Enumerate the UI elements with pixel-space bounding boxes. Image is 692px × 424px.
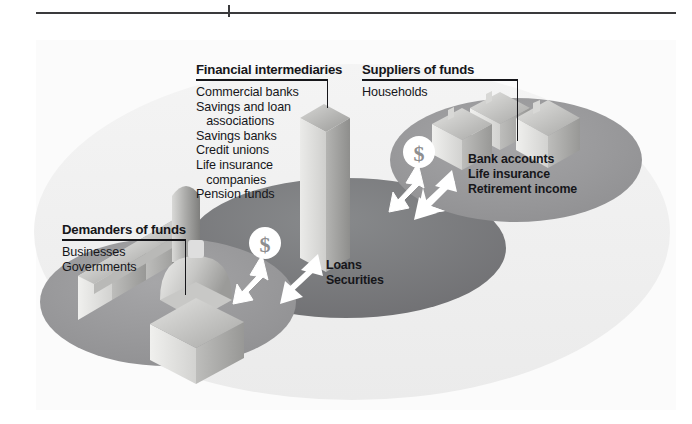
figure-stage: $ $ Financial intermediaries Commercial … — [0, 0, 692, 424]
financial-intermediaries-underline — [196, 79, 328, 81]
skyscraper-icon — [300, 104, 350, 272]
demanders-of-funds-leader — [185, 239, 187, 295]
financial-intermediaries-items: Commercial banks Savings and loan associ… — [196, 85, 299, 202]
suppliers-of-funds-leader — [517, 79, 519, 141]
demanders-of-funds-heading: Demanders of funds — [62, 222, 186, 237]
financial-intermediaries-leader — [327, 79, 329, 108]
dollar-glyph-left: $ — [260, 232, 271, 257]
financial-flow-diagram: $ $ — [0, 0, 692, 424]
dollar-badge-icon-right[interactable]: $ — [403, 136, 435, 168]
supplier-products-label: Bank accounts Life insurance Retirement … — [468, 152, 577, 197]
dollar-badge-icon-left[interactable]: $ — [249, 227, 281, 259]
financial-intermediaries-heading: Financial intermediaries — [196, 62, 342, 77]
suppliers-of-funds-heading: Suppliers of funds — [362, 62, 474, 77]
demander-products-label: Loans Securities — [326, 258, 384, 288]
suppliers-of-funds-items: Households — [362, 85, 428, 100]
dollar-glyph-right: $ — [414, 141, 425, 166]
demanders-of-funds-underline — [62, 239, 186, 241]
suppliers-of-funds-underline — [362, 79, 518, 81]
demanders-of-funds-items: Businesses Governments — [62, 245, 137, 274]
